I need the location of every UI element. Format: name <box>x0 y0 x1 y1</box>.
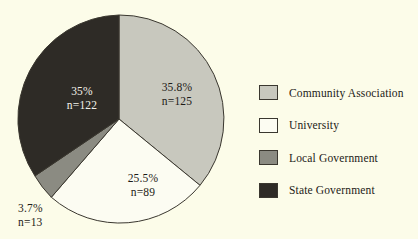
legend-item-label: Local Government <box>289 152 378 164</box>
pie-label-community-association: 35.8% n=125 <box>144 81 210 108</box>
pie-label-state-government: 35% n=122 <box>51 85 113 112</box>
pie-label-percent: 25.5% <box>112 172 174 186</box>
legend-item-local-government[interactable]: Local Government <box>259 149 415 166</box>
pie-label-count: n=122 <box>51 99 113 113</box>
pie-label-percent: 35% <box>51 85 113 99</box>
legend-swatch-icon <box>259 150 278 165</box>
legend-item-university[interactable]: University <box>259 117 415 134</box>
legend-item-state-government[interactable]: State Government <box>259 182 415 199</box>
pie-label-count: n=89 <box>112 186 174 200</box>
pie-chart: 35.8% n=125 25.5% n=89 3.7% n=13 35% n=1… <box>14 11 229 227</box>
legend-item-label: University <box>289 119 339 131</box>
legend-swatch-icon <box>259 118 278 133</box>
pie-label-university: 25.5% n=89 <box>112 172 174 199</box>
pie-label-count: n=13 <box>18 216 66 230</box>
legend-swatch-icon <box>259 183 278 198</box>
pie-label-percent: 3.7% <box>18 202 66 216</box>
pie-label-percent: 35.8% <box>144 81 210 95</box>
chart-legend: Community Association University Local G… <box>259 84 415 214</box>
legend-swatch-icon <box>259 85 278 100</box>
chart-canvas: 35.8% n=125 25.5% n=89 3.7% n=13 35% n=1… <box>0 0 418 239</box>
pie-label-local-government: 3.7% n=13 <box>18 202 66 229</box>
legend-item-community-association[interactable]: Community Association <box>259 84 415 101</box>
legend-item-label: State Government <box>289 184 375 196</box>
legend-item-label: Community Association <box>289 87 404 99</box>
pie-label-count: n=125 <box>144 95 210 109</box>
